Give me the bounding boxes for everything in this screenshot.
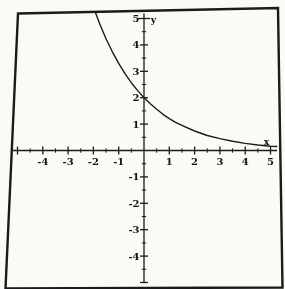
x-tick-label: 5 (267, 156, 274, 167)
x-tick-label: 2 (191, 156, 198, 167)
y-axis-label: y (150, 14, 157, 25)
x-tick-label: 3 (216, 156, 223, 167)
x-tick-label: -3 (63, 156, 74, 167)
y-tick-label: -4 (128, 251, 139, 262)
scanned-graph-page: -4-3-2-11234554321-1-2-3-4xy (0, 0, 285, 289)
x-tick-label: -1 (113, 156, 124, 167)
y-tick-label: 5 (133, 13, 140, 24)
y-tick-label: -3 (128, 224, 139, 235)
exponential-curve (96, 13, 277, 146)
exponential-decay-plot: -4-3-2-11234554321-1-2-3-4xy (0, 0, 285, 289)
x-tick-label: -2 (88, 156, 99, 167)
x-tick-label: -4 (37, 156, 48, 167)
y-tick-label: -2 (128, 198, 139, 209)
y-tick-label: 4 (133, 39, 140, 50)
y-tick-label: 1 (133, 119, 140, 130)
x-tick-label: 4 (242, 156, 249, 167)
y-tick-label: 3 (133, 66, 140, 77)
y-tick-label: 2 (133, 92, 140, 103)
x-tick-label: 1 (166, 156, 173, 167)
y-tick-label: -1 (128, 171, 139, 182)
x-axis-label: x (264, 136, 270, 147)
